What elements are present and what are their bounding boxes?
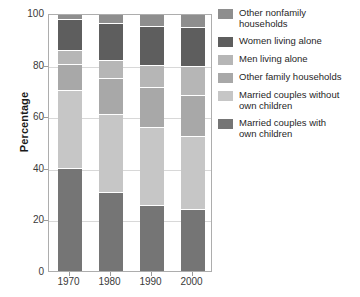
bar-segment[interactable] [99,61,123,79]
legend-item[interactable]: Women living alone [218,36,358,47]
bar-segment[interactable] [99,24,123,61]
bar-segment[interactable] [181,210,205,271]
bar-segment[interactable] [181,28,205,68]
bar-1990[interactable] [140,15,164,271]
legend-item[interactable]: Married couples without own children [218,90,358,111]
bar-1980[interactable] [99,15,123,271]
bar-segment[interactable] [140,88,164,128]
y-axis-tick-label: 20 [18,215,44,225]
x-axis-tick-label-2000: 2000 [169,276,215,287]
bar-segment[interactable] [99,15,123,24]
bar-segment[interactable] [99,115,123,193]
legend-item-label: Other nonfamily households [239,8,306,29]
bar-segment[interactable] [181,137,205,210]
legend: Other nonfamily householdsWomen living a… [218,8,358,146]
legend-item-label: Married couples without own children [239,90,339,111]
legend-item-label: Other family households [239,72,341,83]
x-axis-tick-label-1970: 1970 [46,276,92,287]
bar-segment[interactable] [140,66,164,88]
x-axis-tick-mark [69,272,70,276]
legend-swatch-icon [218,55,233,65]
bar-segment[interactable] [140,27,164,67]
bar-segment[interactable] [58,91,82,169]
bar-segment[interactable] [140,128,164,206]
bar-segment[interactable] [58,20,82,51]
x-axis-tick-label-1990: 1990 [128,276,174,287]
bar-segment[interactable] [99,79,123,115]
stacked-bar-chart: Percentage 020406080100 1970198019902000… [0,0,360,297]
legend-swatch-icon [218,9,233,19]
y-axis-tick-label: 40 [18,164,44,174]
bar-segment[interactable] [58,169,82,271]
bar-segment[interactable] [140,206,164,271]
bar-segment[interactable] [99,193,123,271]
x-axis-tick-mark [151,272,152,276]
bar-segment[interactable] [181,96,205,137]
legend-swatch-icon [218,91,233,101]
bar-1970[interactable] [58,15,82,271]
legend-swatch-icon [218,37,233,47]
plot-area [48,14,212,272]
legend-item[interactable]: Men living alone [218,54,358,65]
x-axis-tick-mark [192,272,193,276]
x-axis-tick-mark [110,272,111,276]
bar-segment[interactable] [181,15,205,28]
y-axis-tick-label: 0 [18,267,44,277]
legend-item[interactable]: Married couples with own children [218,118,358,139]
bar-segment[interactable] [181,67,205,95]
legend-swatch-icon [218,119,233,129]
bar-2000[interactable] [181,15,205,271]
legend-item-label: Women living alone [239,36,322,47]
bar-segment[interactable] [58,65,82,91]
y-axis-tick-label: 60 [18,112,44,122]
legend-item[interactable]: Other family households [218,72,358,83]
legend-item-label: Men living alone [239,54,308,65]
bar-segment[interactable] [58,51,82,65]
legend-item[interactable]: Other nonfamily households [218,8,358,29]
legend-item-label: Married couples with own children [239,118,326,139]
y-axis-tick-label: 80 [18,61,44,71]
x-axis-tick-label-1980: 1980 [87,276,133,287]
bar-segment[interactable] [140,15,164,27]
legend-swatch-icon [218,73,233,83]
y-axis-tick-label: 100 [18,9,44,19]
